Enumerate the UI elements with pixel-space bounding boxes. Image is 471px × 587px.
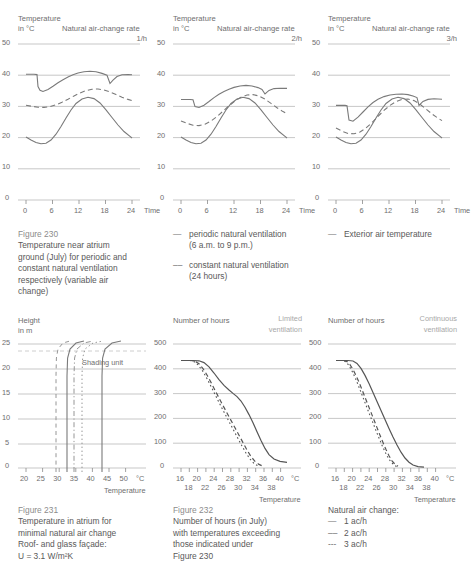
x-tick-20: 20: [193, 474, 201, 483]
curve-2-ac-h: [181, 361, 263, 467]
x-tick-22: 22: [201, 483, 209, 492]
chart-header: Temperature in °C Natural air-change rat…: [310, 14, 465, 36]
y-tick-100: 100: [154, 437, 166, 446]
y-tick-0: 0: [315, 461, 319, 470]
x-tick-30: 30: [53, 474, 61, 483]
chart-header: Temperature in °C Natural air-change rat…: [155, 14, 310, 36]
x-tick-26: 26: [373, 483, 381, 492]
x-tick-25: 25: [37, 474, 45, 483]
y-tick-20: 20: [2, 363, 10, 372]
chart-panel-airchange-2h: Temperature in °C Natural air-change rat…: [155, 14, 310, 204]
y-axis-unit: in °C: [173, 24, 190, 34]
plot-area: 500 400 300 200 100 0 16 20 24 28 32 36 …: [328, 336, 465, 472]
plot-area: 50 40 30 20 10 0 0 6 12 18 24 Time: [18, 36, 155, 204]
chart-header: Number of hours Continuous ventilation: [310, 316, 465, 336]
curve-periodic-ventilation: [336, 94, 442, 121]
y-tick-400: 400: [309, 363, 321, 372]
figure-230-line-3: constant natural ventilation: [18, 263, 158, 274]
figure-232-line-1: Number of hours (in July): [173, 516, 323, 527]
x-tick-30: 30: [234, 483, 242, 492]
legend-marker-dotted: ---: [328, 539, 344, 550]
ventilation-mode-line2: ventilation: [269, 325, 302, 335]
figure-230-line-1: Temperature near atrium: [18, 240, 158, 251]
x-tick-38: 38: [267, 483, 275, 492]
y-tick-50: 50: [312, 38, 320, 47]
caption-figure-232: Figure 232 Number of hours (in July) wit…: [173, 505, 323, 562]
curve-2-ac-h: [336, 361, 398, 467]
y-tick-20: 20: [312, 131, 320, 140]
figure-232-number: Figure 232: [173, 505, 323, 516]
x-axis-label: Temperature: [104, 486, 146, 495]
y-axis-title: Number of hours: [173, 316, 230, 326]
curve-exterior-temperature: [181, 97, 287, 144]
ventilation-mode-line1: Continuous: [420, 314, 457, 324]
curve-periodic-ventilation: [181, 85, 287, 107]
y-tick-200: 200: [154, 412, 166, 421]
x-tick-20: 20: [20, 474, 28, 483]
chart-panel-hours-continuous: Number of hours Continuous ventilation: [310, 316, 465, 472]
x-tick-45: 45: [103, 474, 111, 483]
air-change-rate-label: Natural air-change rate: [372, 24, 450, 34]
legend-sublabel-periodic: (6 a.m. to 9 p.m.): [173, 240, 318, 251]
legend-marker-solid: —: [328, 229, 344, 240]
figure-232-line-2: with temperatures exceeding: [173, 528, 323, 539]
x-axis-unit: °C: [446, 474, 454, 483]
ventilation-mode-line1: Limited: [278, 314, 302, 324]
x-tick-30: 30: [389, 483, 397, 492]
y-tick-0: 0: [160, 461, 164, 470]
air-change-rate-label: Natural air-change rate: [217, 24, 295, 34]
x-tick-22: 22: [356, 483, 364, 492]
plot-area: 50 40 30 20 10 0 0 6 12 18 24 Time: [173, 36, 310, 204]
y-tick-200: 200: [309, 412, 321, 421]
y-axis-unit: in °C: [328, 24, 345, 34]
y-tick-300: 300: [154, 388, 166, 397]
y-axis-title: Number of hours: [328, 316, 385, 326]
y-tick-25: 25: [2, 338, 10, 347]
x-tick-28: 28: [381, 474, 389, 483]
x-tick-36: 36: [259, 474, 267, 483]
y-tick-10: 10: [157, 162, 165, 171]
x-tick-24: 24: [282, 206, 290, 215]
caption-figure-230: Figure 230 Temperature near atrium groun…: [18, 229, 158, 297]
y-tick-30: 30: [157, 100, 165, 109]
y-axis-title-line1: Height: [18, 316, 40, 326]
figure-sheet: Temperature in °C Natural air-change rat…: [0, 0, 471, 587]
x-tick-18: 18: [101, 206, 109, 215]
chart-header: Number of hours Limited ventilation: [155, 316, 310, 336]
x-tick-24: 24: [364, 474, 372, 483]
x-tick-26: 26: [218, 483, 226, 492]
curve-3-ac-h: [181, 361, 258, 467]
x-axis-label: Time: [144, 206, 160, 215]
x-tick-34: 34: [406, 483, 414, 492]
x-tick-6: 6: [205, 206, 209, 215]
legend-marker-solid: —: [328, 516, 344, 527]
y-tick-20: 20: [157, 131, 165, 140]
x-tick-40: 40: [276, 474, 284, 483]
curve-constant-ventilation: [26, 89, 132, 107]
legend-item-3-ac-h: ---3 ac/h: [328, 539, 463, 550]
y-tick-0: 0: [315, 193, 319, 202]
x-tick-50: 50: [120, 474, 128, 483]
y-axis-unit: in °C: [18, 24, 35, 34]
x-tick-40: 40: [431, 474, 439, 483]
x-axis-unit: °C: [291, 474, 299, 483]
curve-periodic-ventilation: [26, 71, 132, 91]
plot-area: 25 20 15 10 5 0 20 25 30 35 40 45 50 °C …: [18, 336, 155, 472]
y-tick-10: 10: [2, 413, 10, 422]
legend-label-exterior: Exterior air temperature: [344, 229, 432, 239]
legend-item-constant: ––constant natural ventilation: [173, 260, 318, 271]
y-tick-40: 40: [2, 69, 10, 78]
y-tick-0: 0: [5, 461, 9, 470]
figure-231-line-3: Roof- and glass façade:: [18, 539, 158, 550]
x-tick-36: 36: [414, 474, 422, 483]
curve-exterior-temperature: [26, 97, 132, 144]
air-change-rate-label: Natural air-change rate: [62, 24, 140, 34]
x-tick-16: 16: [176, 474, 184, 483]
x-tick-18: 18: [184, 483, 192, 492]
legend-label-2-ac-h: 2 ac/h: [344, 528, 367, 538]
chart-panel-airchange-1h: Temperature in °C Natural air-change rat…: [0, 14, 155, 204]
y-tick-0: 0: [160, 193, 164, 202]
legend-marker-dashed: ––: [173, 260, 189, 271]
y-tick-30: 30: [2, 100, 10, 109]
figure-230-line-5: change): [18, 286, 158, 297]
